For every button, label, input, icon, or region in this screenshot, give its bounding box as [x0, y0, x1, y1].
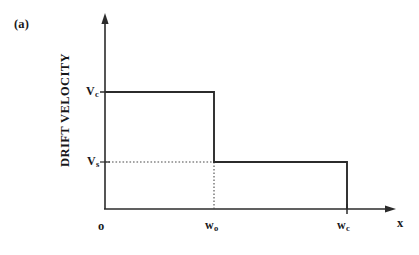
- y-tick-label-vs-text: V: [87, 154, 96, 168]
- x-axis-title: x: [397, 216, 403, 231]
- y-tick-label-vc: Vc: [86, 84, 98, 99]
- y-tick-label-vs-subscript: s: [96, 159, 99, 169]
- y-tick-label-vs: Vs: [87, 154, 99, 169]
- x-tick-label-wo-subscript: o: [214, 223, 218, 233]
- y-axis-arrow-icon: [101, 13, 108, 24]
- x-tick-label-wo: wo: [205, 218, 218, 233]
- x-tick-label-wc-text: w: [337, 218, 346, 232]
- plot-area: [0, 0, 419, 255]
- x-tick-label-wc: wc: [337, 218, 349, 233]
- x-tick-label-wo-text: w: [205, 218, 214, 232]
- drift-velocity-curve: [105, 92, 347, 209]
- y-tick-label-vc-subscript: c: [95, 89, 99, 99]
- figure-panel-a: (a) DRIFT VELOCITY Vc Vs o wo wc x: [0, 0, 419, 255]
- x-tick-label-wc-subscript: c: [346, 223, 350, 233]
- y-tick-label-vc-text: V: [86, 84, 95, 98]
- x-axis-arrow-icon: [385, 205, 396, 212]
- origin-label: o: [98, 219, 104, 234]
